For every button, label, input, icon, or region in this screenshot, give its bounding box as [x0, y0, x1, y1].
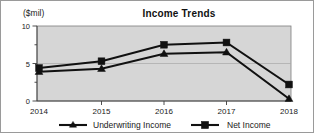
- y-tick-label-5: 5: [26, 60, 30, 69]
- y-tick-label-10: 10: [22, 22, 30, 31]
- square-marker-icon: [36, 65, 43, 72]
- square-marker-icon: [98, 58, 105, 65]
- x-tick-label-2016: 2016: [155, 107, 173, 116]
- x-tick-label-2017: 2017: [218, 107, 236, 116]
- legend-label-underwriting-income: Underwriting Income: [93, 120, 171, 130]
- x-tick-label-2014: 2014: [30, 107, 48, 116]
- x-tick-label-2015: 2015: [93, 107, 111, 116]
- square-marker-icon: [223, 39, 230, 46]
- legend-label-net-income: Net Income: [227, 120, 271, 130]
- y-axis-unit-label: ($mil): [23, 8, 44, 18]
- square-marker-icon: [161, 41, 168, 48]
- square-marker-icon: [286, 81, 293, 88]
- x-tick-label-2018: 2018: [280, 107, 298, 116]
- chart-legend: Underwriting Income Net Income: [59, 120, 271, 130]
- chart-title: Income Trends: [142, 8, 215, 19]
- income-trends-line-chart: ($mil) Income Trends 10 5 0 2014 2015 20…: [1, 1, 314, 133]
- y-tick-label-0: 0: [26, 97, 30, 106]
- chart-figure: ($mil) Income Trends 10 5 0 2014 2015 20…: [0, 0, 314, 133]
- square-marker-icon: [201, 121, 208, 128]
